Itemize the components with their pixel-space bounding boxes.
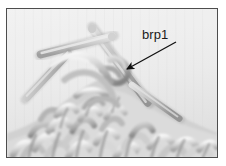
photo-frame: brp1 [6,8,218,158]
figure-container: brp1 [0,0,226,166]
knitting-photograph [7,9,217,157]
brp1-label: brp1 [142,27,168,42]
